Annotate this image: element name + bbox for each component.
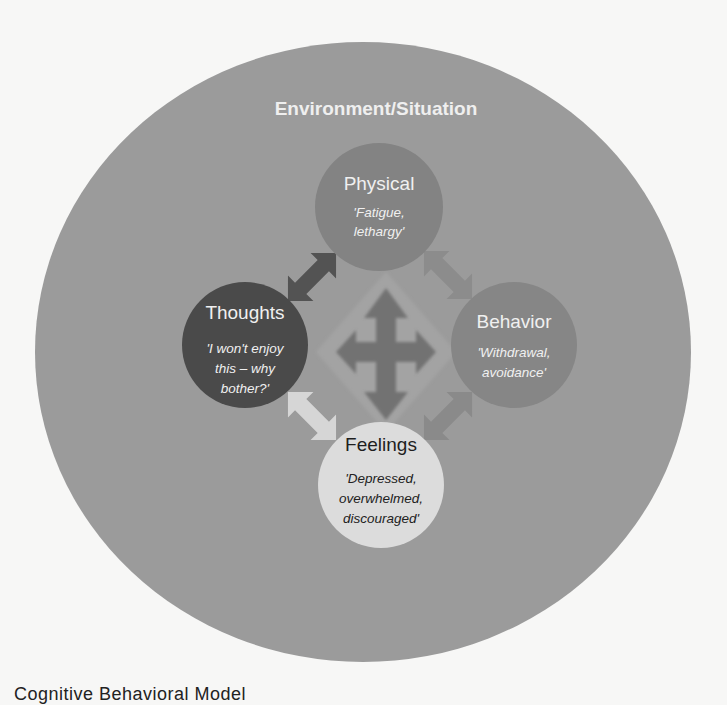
node-feelings: Feelings 'Depressed, overwhelmed, discou… [318, 422, 444, 548]
feelings-quote-line: discouraged' [343, 511, 420, 526]
figure-caption: Cognitive Behavioral Model [14, 684, 246, 705]
node-physical: Physical 'Fatigue, lethargy' [315, 143, 443, 271]
physical-quote-line: 'Fatigue, [353, 205, 404, 220]
feelings-quote-line: 'Depressed, [345, 471, 417, 486]
node-thoughts: Thoughts 'I won't enjoy this – why bothe… [182, 282, 308, 408]
thoughts-title: Thoughts [205, 302, 284, 323]
environment-title: Environment/Situation [275, 98, 478, 119]
thoughts-quote-line: 'I won't enjoy [206, 341, 284, 356]
feelings-quote-line: overwhelmed, [339, 491, 423, 506]
behavior-quote-line: 'Withdrawal, [478, 345, 551, 360]
thoughts-quote-line: bother?' [221, 381, 270, 396]
thoughts-quote-line: this – why [215, 361, 276, 376]
behavior-quote-line: avoidance' [482, 365, 547, 380]
physical-quote-line: lethargy' [354, 224, 405, 239]
physical-title: Physical [344, 173, 415, 194]
feelings-title: Feelings [345, 434, 417, 455]
behavior-title: Behavior [477, 311, 553, 332]
node-behavior: Behavior 'Withdrawal, avoidance' [451, 282, 577, 408]
